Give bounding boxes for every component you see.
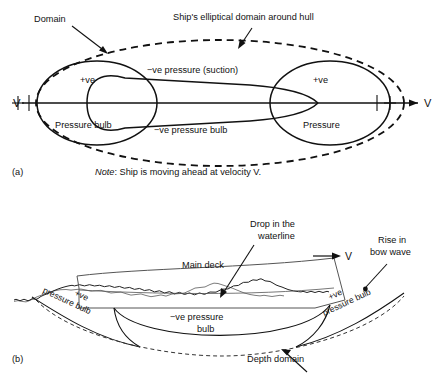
label-main-deck: Main deck [182, 260, 224, 270]
label-ship-domain: Ship's elliptical domain around hull [173, 12, 314, 22]
label-velocity-b: V [345, 250, 352, 262]
label-pos-bulb-left-group: +ve pressure bulb [41, 275, 97, 316]
label-neg-bulb-b-l2: bulb [197, 324, 214, 334]
label-pressure-bulb: Pressure bulb [55, 120, 112, 130]
figure-root: Ⅴ Domain Ship's elliptical domain around… [0, 0, 442, 382]
label-plus-ve-stern: +ve [313, 75, 328, 85]
label-neg-pressure-suction: −ve pressure (suction) [147, 65, 238, 75]
label-velocity-a: V [424, 97, 432, 109]
label-neg-pressure-bulb: −ve pressure bulb [154, 125, 227, 135]
axis-arrowhead [409, 100, 418, 107]
panel-a-note: Note: Ship is moving ahead at velocity V… [95, 167, 261, 177]
rise-bow-wave-leader [366, 264, 387, 287]
hull-waterline-edge [79, 288, 334, 294]
domain-leader-line [72, 26, 106, 52]
panel-a-group: Ⅴ Domain Ship's elliptical domain around… [12, 12, 432, 177]
label-pressure: Pressure [303, 120, 340, 130]
label-neg-bulb-b-l1: −ve pressure [170, 312, 223, 322]
centreline-symbol-left: Ⅴ [12, 96, 24, 110]
label-rise-bow-l1: Rise in [378, 235, 406, 245]
label-drop-waterline-l1: Drop in the [250, 219, 295, 229]
panel-a-tag: (a) [12, 167, 23, 177]
label-drop-waterline-l2: waterline [257, 231, 295, 241]
velocity-arrow-head-b [332, 253, 341, 260]
note-prefix: Note [95, 167, 114, 177]
panel-b-group: Drop in the waterline Rise in bow wave M… [0, 0, 411, 372]
label-domain: Domain [34, 14, 66, 24]
panel-b-tag: (b) [12, 354, 23, 364]
suction-region-upper [87, 76, 318, 103]
centreline-symbol-right [384, 96, 396, 110]
label-depth-domain: Depth domain [247, 354, 304, 364]
label-rise-bow-l2: bow wave [370, 247, 411, 257]
label-plus-ve-bow: +ve [80, 75, 95, 85]
note-text: : Ship is moving ahead at velocity V. [114, 167, 261, 177]
drop-waterline-leader [222, 245, 254, 295]
diagram-canvas: Ⅴ Domain Ship's elliptical domain around… [0, 0, 442, 382]
